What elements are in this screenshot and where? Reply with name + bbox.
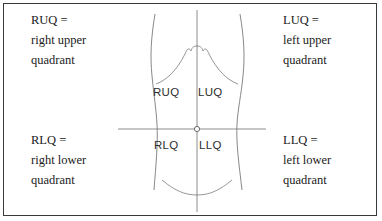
legend-right-lower-quadrant: RLQ = right lower quadrant <box>31 130 86 190</box>
legend-abbreviation: LUQ = <box>283 10 331 30</box>
legend-left-lower-quadrant: LLQ = left lower quadrant <box>283 130 331 190</box>
legend-abbreviation: LLQ = <box>283 130 331 150</box>
legend-abbreviation: RLQ = <box>31 130 86 150</box>
legend-left-upper-quadrant: LUQ = left upper quadrant <box>283 10 331 70</box>
right-flank-outline <box>237 14 244 190</box>
legend-name-line-1: left upper <box>283 30 331 50</box>
legend-name-line-1: right upper <box>31 30 86 50</box>
legend-name-line-1: left lower <box>283 150 331 170</box>
legend-name-line-2: quadrant <box>31 50 86 70</box>
torso-label-luq: LUQ <box>198 86 223 98</box>
left-flank-outline <box>151 14 157 190</box>
legend-right-upper-quadrant: RUQ = right upper quadrant <box>31 10 86 70</box>
torso-label-ruq: RUQ <box>153 86 179 98</box>
legend-name-line-2: quadrant <box>283 50 331 70</box>
left-costal-margin <box>156 49 191 84</box>
navel-icon <box>194 126 199 131</box>
diagram-canvas: RUQ = right upper quadrant LUQ = left up… <box>0 0 382 221</box>
legend-abbreviation: RUQ = <box>31 10 86 30</box>
right-costal-margin <box>203 49 238 84</box>
legend-name-line-2: quadrant <box>283 170 331 190</box>
torso-label-rlq: RLQ <box>154 139 179 151</box>
torso-label-llq: LLQ <box>199 139 222 151</box>
legend-name-line-2: quadrant <box>31 170 86 190</box>
legend-name-line-1: right lower <box>31 150 86 170</box>
